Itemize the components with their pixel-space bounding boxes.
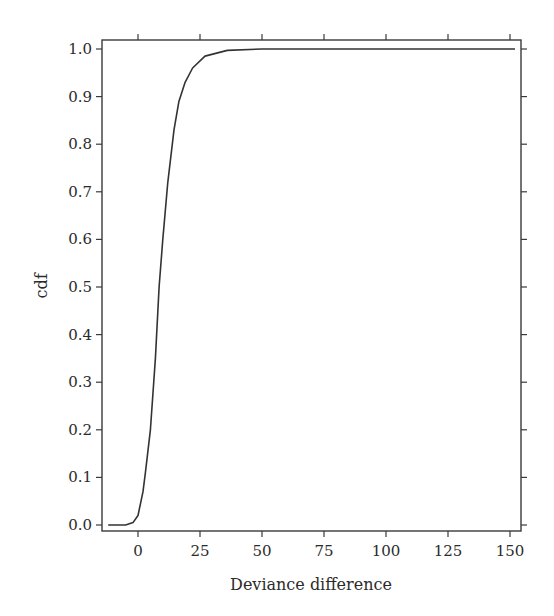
cdf-chart: 0255075100125150 0.00.10.20.30.40.50.60.… xyxy=(0,0,554,616)
y-tick-label: 0.7 xyxy=(68,183,92,201)
y-tick-label: 0.4 xyxy=(68,326,92,344)
x-tick-label: 25 xyxy=(190,542,209,560)
x-tick-label: 0 xyxy=(133,542,143,560)
y-tick-label: 0.2 xyxy=(68,421,92,439)
x-tick-label: 125 xyxy=(434,542,463,560)
plot-frame xyxy=(102,40,521,531)
x-axis: 0255075100125150 xyxy=(133,34,524,560)
x-tick-label: 75 xyxy=(314,542,333,560)
y-tick-label: 0.8 xyxy=(68,135,92,153)
y-tick-label: 0.6 xyxy=(68,230,92,248)
x-tick-label: 50 xyxy=(252,542,271,560)
x-tick-label: 150 xyxy=(496,542,525,560)
cdf-curve xyxy=(108,49,515,525)
y-tick-label: 1.0 xyxy=(68,40,92,58)
y-tick-label: 0.0 xyxy=(68,516,92,534)
y-axis-label: cdf xyxy=(32,272,51,298)
y-axis: 0.00.10.20.30.40.50.60.70.80.91.0 xyxy=(68,40,527,534)
x-axis-label: Deviance difference xyxy=(230,575,392,594)
y-tick-label: 0.1 xyxy=(68,468,92,486)
y-tick-label: 0.5 xyxy=(68,278,92,296)
y-tick-label: 0.3 xyxy=(68,373,92,391)
y-tick-label: 0.9 xyxy=(68,88,92,106)
x-tick-label: 100 xyxy=(372,542,401,560)
